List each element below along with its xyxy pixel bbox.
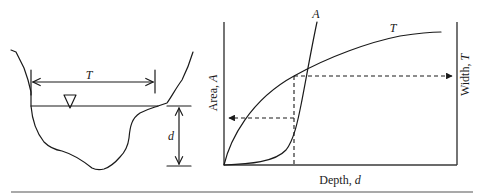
right-y-axis-label: Width, T bbox=[458, 53, 472, 97]
hydraulic-geometry-figure: T d T A Depth, d Area, A Width, T bbox=[0, 0, 481, 196]
curve-A-label: A bbox=[311, 7, 320, 21]
curve-T-label: T bbox=[390, 21, 398, 35]
curve-area-A bbox=[224, 22, 317, 165]
channel-cross-section: T d bbox=[11, 50, 193, 170]
channel-bed-outline bbox=[11, 50, 193, 170]
area-width-depth-chart: T A Depth, d Area, A Width, T bbox=[206, 7, 472, 187]
depth-label: d bbox=[168, 129, 175, 143]
left-y-axis-label: Area, A bbox=[206, 74, 220, 111]
x-axis-label: Depth, d bbox=[319, 173, 361, 187]
curve-width-T bbox=[224, 32, 441, 165]
top-width-label: T bbox=[86, 68, 94, 82]
